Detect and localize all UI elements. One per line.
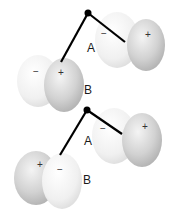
top-diagram: − + − + A B xyxy=(17,10,165,113)
lobe-light xyxy=(42,153,82,209)
sign-left: − xyxy=(100,123,106,134)
orbital-a-bottom: − + xyxy=(92,108,162,167)
bond-line-b xyxy=(61,13,88,62)
pivot-dot xyxy=(85,10,92,17)
label-a: A xyxy=(84,134,92,148)
orbital-a-top: − + xyxy=(95,12,165,71)
sign-right: + xyxy=(145,29,151,40)
lobe-dark xyxy=(44,58,84,112)
bond-line-b xyxy=(60,110,87,155)
bottom-diagram: + − − + A B xyxy=(14,107,162,210)
orbital-b-top: − + xyxy=(17,55,84,112)
sign-left: − xyxy=(33,66,39,77)
label-b: B xyxy=(83,173,91,187)
orbital-overlap-diagram: − + − + A B + − − + xyxy=(0,0,172,216)
sign-right: + xyxy=(58,67,64,78)
lobe-dark xyxy=(127,19,165,71)
sign-right: + xyxy=(142,121,148,132)
label-a: A xyxy=(87,41,95,55)
pivot-dot xyxy=(84,107,91,114)
sign-left: − xyxy=(101,28,107,39)
sign-left: + xyxy=(37,159,43,170)
label-b: B xyxy=(84,83,92,97)
sign-right: − xyxy=(57,164,63,175)
orbital-b-bottom: + − xyxy=(14,151,82,209)
